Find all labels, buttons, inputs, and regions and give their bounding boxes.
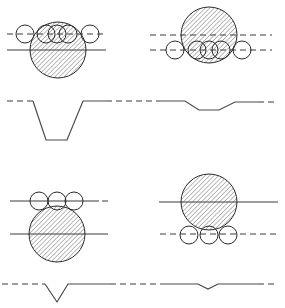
profile-bottom: [2, 284, 276, 302]
hatched-wheel-circle: [181, 174, 237, 230]
grain-circle: [219, 226, 237, 244]
profile-top: [7, 101, 276, 140]
panel-top-left: [7, 22, 107, 78]
panels-layer: [7, 7, 278, 262]
panel-top-right: [150, 7, 272, 63]
grain-circle: [180, 226, 198, 244]
hatched-wheel-circle: [30, 22, 86, 78]
solid-profile-segment: [160, 101, 258, 110]
panel-bottom-left: [10, 192, 108, 262]
solid-profile-segment: [160, 284, 258, 289]
hatched-wheel-circle: [29, 206, 85, 262]
panel-bottom-right: [159, 174, 278, 244]
diagram-canvas: [0, 0, 285, 308]
solid-profile-segment: [33, 101, 106, 140]
solid-profile-segment: [45, 284, 110, 302]
